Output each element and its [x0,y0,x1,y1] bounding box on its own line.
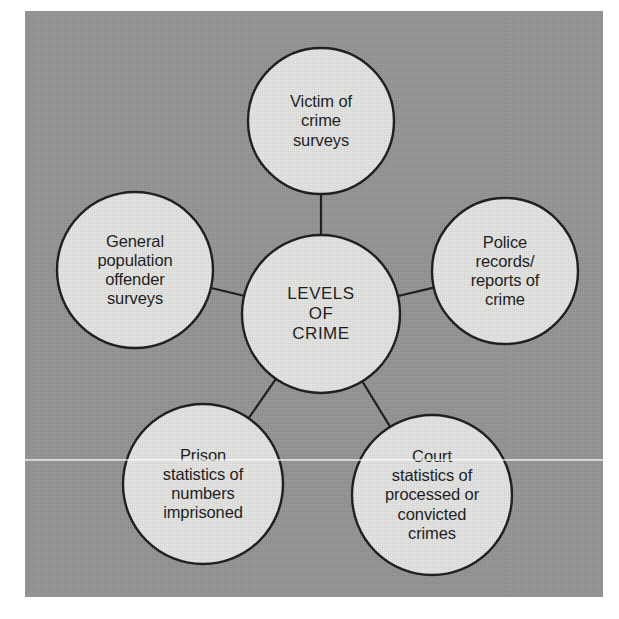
diagram-figure: Victim of crime surveysPolice records/ r… [0,0,619,619]
satellite-node-circle-court-statistics-of-processed-or-convicted-crimes[interactable] [352,415,512,575]
satellite-node-circle-police-records-reports-of-crime[interactable] [432,198,578,344]
satellite-node-circle-victim-of-crime-surveys[interactable] [248,48,394,194]
center-node-circle-levels-of-crime[interactable] [242,235,400,393]
connector-police-records-reports-of-crime [395,287,437,297]
satellite-node-circle-general-population-offender-surveys[interactable] [57,192,213,348]
satellite-node-circle-prison-statistics-of-numbers-imprisoned[interactable] [123,404,283,564]
diagram-canvas [0,0,619,619]
connector-prison-statistics-of-numbers-imprisoned [247,376,278,420]
connector-court-statistics-of-processed-or-convicted-crimes [361,379,392,430]
node-circle-group [57,48,578,575]
connector-general-population-offender-surveys [208,287,247,296]
